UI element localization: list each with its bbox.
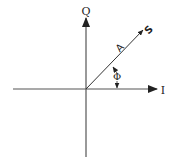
i-axis-label: I [161,84,165,97]
q-axis-label: Q [81,5,90,18]
angle-label: Φ [113,71,121,82]
phasor-diagram: Q I S A Φ [0,0,173,159]
vector-name-label: S [142,23,155,36]
magnitude-label: A [113,41,126,54]
